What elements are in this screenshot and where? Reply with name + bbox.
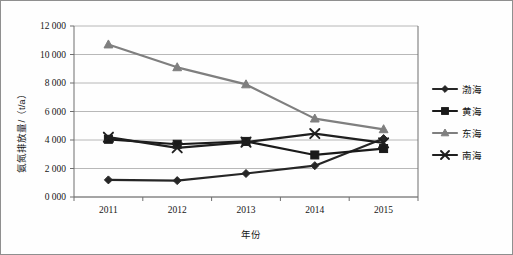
- data-point-diamond-marker: [242, 169, 250, 177]
- chart-figure: 0 0002 0004 0006 0008 00010 00012 000 20…: [0, 0, 513, 255]
- y-tick-label: 8 000: [45, 78, 67, 88]
- data-point-square-marker: [442, 108, 449, 115]
- y-tick-labels-group: 0 0002 0004 0006 0008 00010 00012 000: [40, 21, 66, 202]
- line-chart: 0 0002 0004 0006 0008 00010 00012 000 20…: [1, 1, 513, 255]
- series-2: [104, 40, 388, 133]
- legend-item-渤海[interactable]: 渤海: [433, 84, 482, 95]
- y-tick-label: 12 000: [40, 21, 66, 31]
- x-tick-labels-group: 20112012201320142015: [99, 205, 393, 215]
- y-tick-label: 6 000: [45, 107, 67, 117]
- data-point-diamond-marker: [173, 177, 181, 185]
- y-tick-label: 2 000: [45, 164, 67, 174]
- legend-label: 南海: [462, 150, 482, 161]
- x-tick-label: 2015: [374, 205, 393, 215]
- x-tick-label: 2011: [99, 205, 118, 215]
- x-tick-label: 2012: [168, 205, 187, 215]
- y-tick-label: 0 000: [45, 192, 67, 202]
- series-1: [104, 135, 387, 159]
- legend-item-南海[interactable]: 南海: [433, 150, 482, 161]
- x-axis-title: 年份: [241, 229, 261, 240]
- series-group: [104, 40, 388, 185]
- legend-item-东海[interactable]: 东海: [433, 128, 482, 139]
- x-tick-label: 2013: [237, 205, 256, 215]
- y-tick-label: 10 000: [40, 50, 66, 60]
- legend-label: 黄海: [462, 106, 482, 117]
- legend-label: 东海: [462, 128, 482, 139]
- y-tick-label: 4 000: [45, 135, 67, 145]
- legend-item-黄海[interactable]: 黄海: [433, 106, 482, 117]
- legend-label: 渤海: [462, 84, 482, 95]
- y-axis-title: 氨氮排放量/（t/a）: [16, 89, 27, 172]
- data-point-diamond-marker: [442, 86, 449, 93]
- data-point-diamond-marker: [104, 176, 112, 184]
- x-tick-label: 2014: [305, 205, 324, 215]
- data-point-triangle-marker: [104, 40, 113, 48]
- data-point-square-marker: [311, 151, 319, 159]
- legend: 渤海黄海东海南海: [433, 84, 482, 161]
